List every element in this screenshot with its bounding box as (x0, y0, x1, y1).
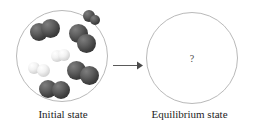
dark-molecule-3-atom-2 (80, 66, 99, 85)
dark-molecule-4-atom-2 (52, 81, 70, 99)
initial-state-caption: Initial state (0, 108, 126, 120)
equilibrium-state-caption: Equilibrium state (126, 108, 253, 120)
unknown-contents-label: ? (146, 12, 238, 104)
initial-state-panel (16, 10, 108, 102)
dark-molecule-1-atom-2 (41, 19, 60, 38)
light-molecule-1-atom-2 (58, 49, 70, 61)
right-arrow-icon (113, 57, 143, 68)
equilibrium-state-panel: ? (146, 12, 238, 104)
dark-molecule-2-atom-2 (77, 34, 96, 53)
light-molecule-2-atom-2 (37, 64, 50, 77)
dark-molecule-5-atom-2 (90, 15, 100, 25)
equilibrium-diagram: ? Initial state Equilibrium state (0, 0, 253, 130)
